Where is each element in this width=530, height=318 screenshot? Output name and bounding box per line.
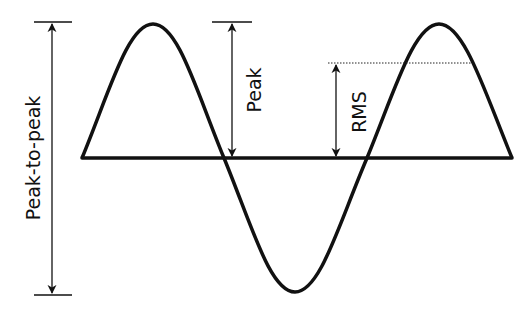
rms-label: RMS bbox=[348, 91, 370, 133]
peak-measure: Peak bbox=[212, 22, 265, 156]
peak-label: Peak bbox=[243, 67, 265, 112]
peak-to-peak-label: Peak-to-peak bbox=[22, 96, 44, 221]
peak-to-peak-measure: Peak-to-peak bbox=[22, 22, 72, 295]
sine-wave-diagram: Peak-to-peak Peak RMS bbox=[0, 0, 530, 318]
